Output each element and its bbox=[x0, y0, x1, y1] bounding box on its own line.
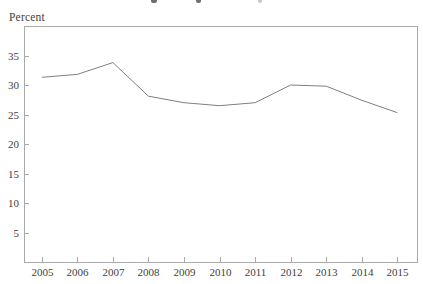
x-tick-label: 2012 bbox=[281, 266, 303, 278]
y-tick-label: 25 bbox=[8, 109, 20, 121]
y-tick-label: 5 bbox=[14, 227, 20, 239]
line-chart: 5101520253035200520062007200820092010201… bbox=[0, 0, 423, 284]
y-tick-label: 10 bbox=[8, 197, 20, 209]
x-tick-label: 2008 bbox=[138, 266, 161, 278]
x-tick-label: 2015 bbox=[387, 266, 410, 278]
x-tick-label: 2007 bbox=[103, 266, 126, 278]
x-tick-label: 2006 bbox=[67, 266, 90, 278]
x-tick-label: 2009 bbox=[174, 266, 197, 278]
chart-figure: Percent 51015202530352005200620072008200… bbox=[0, 0, 423, 284]
x-tick-label: 2011 bbox=[245, 266, 267, 278]
x-tick-label: 2005 bbox=[32, 266, 55, 278]
x-tick-label: 2014 bbox=[352, 266, 375, 278]
y-tick-label: 35 bbox=[8, 50, 20, 62]
data-line bbox=[42, 63, 398, 113]
y-tick-label: 15 bbox=[8, 168, 20, 180]
y-tick-label: 20 bbox=[8, 138, 20, 150]
x-tick-label: 2010 bbox=[210, 266, 233, 278]
x-tick-label: 2013 bbox=[316, 266, 339, 278]
y-tick-label: 30 bbox=[8, 79, 20, 91]
plot-frame bbox=[25, 27, 418, 263]
